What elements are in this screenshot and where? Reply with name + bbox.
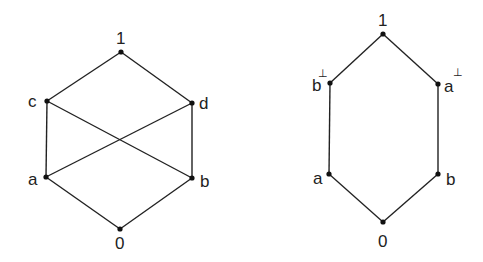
edge-a-0 xyxy=(329,174,383,222)
node-a xyxy=(43,174,48,179)
edge-b-0 xyxy=(120,178,192,229)
label-0: 0 xyxy=(115,234,124,253)
label-a-perp: a xyxy=(444,77,454,96)
label-1: 1 xyxy=(378,11,387,30)
edge-c-a xyxy=(46,101,47,177)
edge-1-bperp xyxy=(330,34,383,83)
node-a-perp xyxy=(435,81,440,86)
left-lattice: 1 c d a b 0 xyxy=(28,29,209,253)
lattice-diagrams: 1 c d a b 0 1 b ⊥ a ⊥ a b 0 xyxy=(0,0,483,262)
node-b-perp xyxy=(327,80,332,85)
edge-1-aperp xyxy=(383,34,438,84)
label-a: a xyxy=(28,170,38,189)
edge-a-0 xyxy=(46,177,120,229)
node-b xyxy=(189,175,194,180)
edge-bperp-a xyxy=(329,83,330,174)
node-c xyxy=(44,98,49,103)
edge-1-d xyxy=(121,52,192,103)
label-b: b xyxy=(446,170,455,189)
node-0 xyxy=(117,226,122,231)
right-lattice: 1 b ⊥ a ⊥ a b 0 xyxy=(312,11,463,251)
label-a: a xyxy=(313,169,323,188)
label-0: 0 xyxy=(378,232,387,251)
label-1: 1 xyxy=(116,29,125,48)
edge-b-0 xyxy=(383,174,438,222)
node-b xyxy=(435,171,440,176)
node-0 xyxy=(380,219,385,224)
node-1 xyxy=(118,49,123,54)
perp-symbol-b: ⊥ xyxy=(318,67,328,80)
node-d xyxy=(189,100,194,105)
node-1 xyxy=(380,31,385,36)
label-c: c xyxy=(28,92,37,111)
node-a xyxy=(326,171,331,176)
label-b: b xyxy=(200,172,209,191)
edge-1-c xyxy=(47,52,121,101)
perp-symbol-a: ⊥ xyxy=(453,66,463,79)
label-d: d xyxy=(199,94,208,113)
